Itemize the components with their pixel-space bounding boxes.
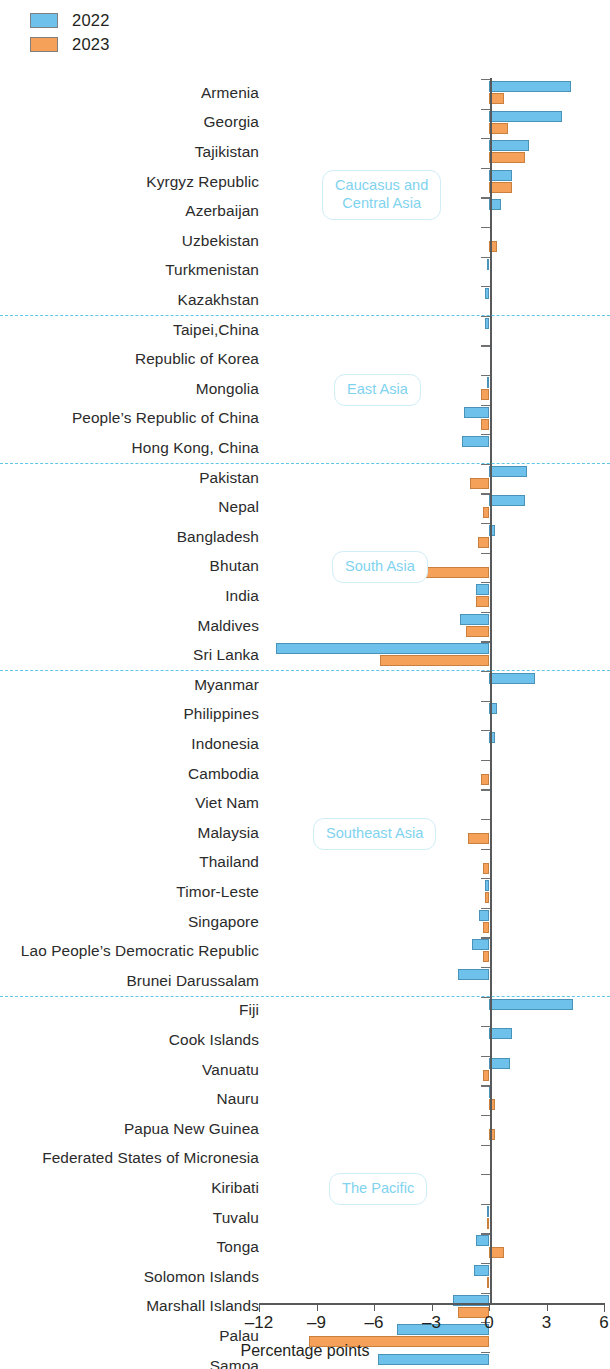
row-tick	[481, 523, 490, 524]
x-axis-title: Percentage points	[0, 1342, 610, 1360]
bar-pair	[259, 1025, 604, 1055]
bar-pair	[259, 877, 604, 907]
bar-pair	[259, 1203, 604, 1233]
region-separator	[0, 996, 610, 997]
chart-row: Vanuatu	[0, 1055, 610, 1085]
row-tick	[481, 1115, 490, 1116]
bar-2022	[464, 407, 489, 418]
category-label: Tuvalu	[213, 1209, 259, 1227]
bar-2022	[460, 614, 489, 625]
bar-2023	[483, 507, 489, 518]
chart-row: Tuvalu	[0, 1203, 610, 1233]
chart-row: Kiribati	[0, 1173, 610, 1203]
category-label: Fiji	[239, 1001, 259, 1019]
bar-2022	[489, 81, 571, 92]
x-tick-label: 6	[599, 1313, 608, 1333]
bar-2023	[489, 152, 525, 163]
chart-row: Lao People’s Democratic Republic	[0, 936, 610, 966]
chart-row: Republic of Korea	[0, 344, 610, 374]
category-label: Georgia	[204, 113, 259, 131]
bar-2022	[489, 111, 562, 122]
row-tick	[481, 138, 490, 139]
row-tick	[481, 168, 490, 169]
row-tick	[481, 405, 490, 406]
bar-2023	[483, 951, 489, 962]
row-tick	[481, 997, 490, 998]
legend-label-2022: 2022	[72, 11, 110, 30]
chart-row: Malaysia	[0, 818, 610, 848]
row-tick	[481, 286, 490, 287]
bar-2023	[481, 389, 489, 400]
chart-row: Hong Kong, China	[0, 433, 610, 463]
x-tick	[432, 1303, 433, 1311]
region-pill-the-pacific: The Pacific	[329, 1173, 427, 1205]
region-separator	[0, 315, 610, 316]
category-label: Philippines	[183, 705, 259, 723]
bar-pair	[259, 315, 604, 345]
bar-2022	[462, 436, 489, 447]
category-label: Kyrgyz Republic	[146, 173, 259, 191]
region-pill-south-asia: South Asia	[332, 551, 428, 583]
region-separator	[0, 463, 610, 464]
row-tick	[481, 257, 490, 258]
category-label: Kiribati	[211, 1179, 259, 1197]
x-tick	[317, 1303, 318, 1311]
x-tick-label: –6	[365, 1313, 384, 1333]
bar-pair	[259, 433, 604, 463]
bar-2022	[489, 1058, 510, 1069]
category-label: Timor-Leste	[176, 883, 259, 901]
category-label: Marshall Islands	[146, 1297, 259, 1315]
zero-axis-line	[490, 78, 492, 1303]
bar-2022	[489, 140, 529, 151]
bar-2022	[479, 910, 489, 921]
x-tick-label: –3	[422, 1313, 441, 1333]
bar-pair	[259, 78, 604, 108]
bar-pair	[259, 226, 604, 256]
bar-2023	[476, 596, 489, 607]
chart-row: Taipei,China	[0, 315, 610, 345]
row-tick	[481, 227, 490, 228]
chart-row: Timor-Leste	[0, 877, 610, 907]
row-tick	[481, 582, 490, 583]
row-tick	[481, 730, 490, 731]
chart-row: Brunei Darussalam	[0, 966, 610, 996]
chart-row: People’s Republic of China	[0, 404, 610, 434]
bar-2022	[489, 170, 512, 181]
bar-2022	[472, 939, 489, 950]
bar-pair	[259, 1173, 604, 1203]
bar-2022	[485, 318, 489, 329]
bar-2022	[489, 495, 525, 506]
x-tick	[489, 1303, 490, 1311]
category-label: People’s Republic of China	[72, 409, 259, 427]
category-label: Taipei,China	[173, 321, 259, 339]
row-tick	[481, 849, 490, 850]
category-label: Tonga	[217, 1238, 259, 1256]
region-pill-east-asia: East Asia	[334, 374, 421, 406]
chart-page: 2022 2023 ArmeniaGeorgiaTajikistanKyrgyz…	[0, 0, 610, 1369]
bar-pair	[259, 344, 604, 374]
bar-pair	[259, 404, 604, 434]
row-tick	[481, 1174, 490, 1175]
bar-2022	[487, 1206, 489, 1217]
category-label: Indonesia	[191, 735, 259, 753]
legend-label-2023: 2023	[72, 35, 110, 54]
bar-2022	[397, 1324, 489, 1335]
bar-pair	[259, 137, 604, 167]
category-label: Myanmar	[194, 676, 259, 694]
category-label: Viet Nam	[195, 794, 259, 812]
bar-pair	[259, 108, 604, 138]
chart-row: Tajikistan	[0, 137, 610, 167]
bar-pair	[259, 285, 604, 315]
row-tick	[481, 612, 490, 613]
row-tick	[481, 1056, 490, 1057]
bar-2022	[489, 999, 573, 1010]
x-tick-label: –9	[307, 1313, 326, 1333]
row-tick	[481, 1085, 490, 1086]
category-label: Maldives	[197, 617, 259, 635]
bar-2022	[485, 880, 489, 891]
bar-pair	[259, 788, 604, 818]
bar-2023	[489, 182, 512, 193]
bar-pair	[259, 1055, 604, 1085]
bar-2022	[476, 1235, 489, 1246]
chart-row: Cambodia	[0, 759, 610, 789]
